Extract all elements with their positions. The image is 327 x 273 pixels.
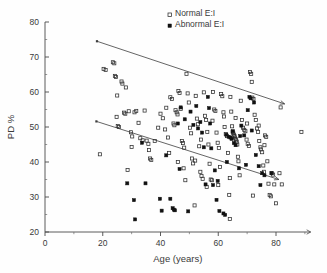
data-point-normal	[223, 125, 226, 128]
upper-regression-line-start-cap	[96, 40, 98, 42]
y-axis-title: PD %	[5, 114, 16, 139]
data-point-normal	[116, 94, 119, 97]
data-point-normal	[180, 139, 183, 142]
data-point-abnormal	[224, 213, 227, 216]
data-point-normal	[188, 126, 191, 129]
legend[interactable]: Normal E:IAbnormal E:I	[168, 8, 224, 29]
data-point-normal	[228, 193, 231, 196]
data-point-abnormal	[176, 122, 179, 125]
x-tick-label: 40	[156, 238, 166, 248]
data-point-normal	[177, 89, 180, 92]
data-point-normal	[199, 170, 202, 173]
data-point-abnormal	[178, 167, 181, 170]
data-point-normal	[228, 218, 231, 221]
data-point-normal	[206, 130, 209, 133]
data-point-normal	[182, 167, 185, 170]
data-point-normal	[161, 117, 164, 120]
y-tick-label: 30	[30, 192, 40, 202]
data-point-abnormal	[215, 198, 218, 201]
data-point-normal	[278, 172, 281, 175]
data-point-normal	[159, 112, 162, 115]
data-point-abnormal	[196, 127, 199, 130]
data-point-abnormal	[246, 109, 249, 112]
lower-regression-line-start-cap	[95, 120, 97, 122]
data-point-normal	[115, 115, 118, 118]
data-point-abnormal	[144, 182, 147, 185]
data-point-abnormal	[250, 129, 253, 132]
data-point-normal	[178, 92, 181, 95]
data-point-abnormal	[234, 144, 237, 147]
legend-item-normal-e-i[interactable]: Normal E:I	[168, 8, 215, 18]
data-point-normal	[205, 118, 208, 121]
y-tick-label: 20	[30, 227, 40, 237]
data-point-normal	[258, 139, 261, 142]
data-point-normal	[257, 130, 260, 133]
data-point-normal	[131, 135, 134, 138]
y-tick-label: 60	[30, 87, 40, 97]
data-point-normal	[120, 80, 123, 83]
data-point-normal	[222, 115, 225, 118]
data-point-normal	[202, 91, 205, 94]
data-point-abnormal	[225, 133, 228, 136]
data-point-normal	[194, 94, 197, 97]
data-point-normal	[193, 204, 196, 207]
data-point-normal	[280, 183, 283, 186]
data-point-normal	[198, 145, 201, 148]
data-point-normal	[195, 117, 198, 120]
series-abnormal-e-i	[126, 95, 273, 221]
data-point-abnormal	[218, 209, 221, 212]
data-point-normal	[231, 125, 234, 128]
data-point-normal	[199, 138, 202, 141]
x-tick-label: 80	[271, 238, 281, 248]
legend-item-abnormal-e-i[interactable]: Abnormal E:I	[168, 19, 224, 29]
data-point-normal	[145, 139, 148, 142]
data-point-normal	[228, 177, 231, 180]
data-point-abnormal	[253, 101, 256, 104]
data-point-abnormal	[199, 121, 202, 124]
data-point-normal	[114, 75, 117, 78]
data-point-abnormal	[257, 165, 260, 168]
data-point-normal	[266, 160, 269, 163]
data-point-normal	[190, 132, 193, 135]
x-axis-title: Age (years)	[153, 253, 202, 264]
data-point-normal	[274, 202, 277, 205]
data-point-normal	[267, 182, 270, 185]
data-point-abnormal	[230, 137, 233, 140]
data-point-abnormal	[134, 218, 137, 221]
data-point-normal	[104, 68, 107, 71]
data-point-normal	[143, 109, 146, 112]
data-point-normal	[126, 169, 129, 172]
data-point-normal	[130, 145, 133, 148]
scatter-plot-figure: 20304050607080020406080 Age (years)PD % …	[0, 0, 327, 273]
data-point-abnormal	[270, 172, 273, 175]
data-point-abnormal	[207, 107, 210, 110]
data-point-normal	[147, 142, 150, 145]
plot-canvas: 20304050607080020406080 Age (years)PD % …	[0, 0, 327, 273]
data-point-abnormal	[209, 122, 212, 125]
x-tick-label: 20	[98, 238, 108, 248]
data-point-abnormal	[158, 197, 161, 200]
y-tick-label: 80	[30, 17, 40, 27]
data-point-normal	[240, 118, 243, 121]
data-point-normal	[229, 95, 232, 98]
data-point-normal	[164, 128, 167, 131]
data-point-abnormal	[259, 184, 262, 187]
data-point-abnormal	[132, 199, 135, 202]
data-point-normal	[98, 153, 101, 156]
data-point-normal	[239, 99, 242, 102]
data-point-normal	[124, 86, 127, 89]
data-point-normal	[207, 143, 210, 146]
data-point-normal	[176, 113, 179, 116]
data-point-abnormal	[160, 209, 163, 212]
data-point-normal	[218, 165, 221, 168]
data-point-normal	[185, 72, 188, 75]
data-point-abnormal	[201, 131, 204, 134]
data-point-abnormal	[140, 141, 143, 144]
data-point-normal	[234, 116, 237, 119]
data-point-normal	[186, 92, 189, 95]
data-point-normal	[238, 174, 241, 177]
data-point-normal	[174, 109, 177, 112]
data-point-normal	[253, 113, 256, 116]
data-point-normal	[147, 149, 150, 152]
x-tick-label: 0	[43, 238, 48, 248]
